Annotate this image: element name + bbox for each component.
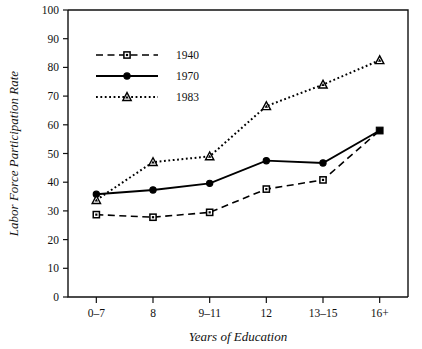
series-1983 [92,56,384,204]
series-1940 [93,131,379,221]
data-point-1983-2 [205,152,213,160]
x-tick-label: 16+ [371,307,389,319]
x-tick-label: 9–11 [198,307,221,319]
y-tick-label: 30 [48,205,60,217]
y-tick-label: 100 [42,4,60,16]
y-tick-label: 0 [53,291,59,303]
y-tick-label: 60 [48,119,60,131]
data-point-1970-5 [376,127,383,134]
data-point-1940-2 [207,209,213,215]
legend-label-1983: 1983 [176,91,199,103]
line-chart: 01020304050607080901000–789–111213–1516+… [0,0,422,349]
series-line-1983 [96,60,379,200]
y-axis-title: Labor Force Participation Rate [6,71,21,237]
x-tick-label: 13–15 [309,307,338,319]
data-point-1940-4 [320,177,326,183]
y-axis: 0102030405060708090100 [42,4,68,303]
y-tick-label: 70 [48,90,60,102]
data-point-1970-4 [320,160,326,166]
data-point-1970-3 [263,158,269,164]
data-point-legend-1940 [124,52,130,58]
data-point-1970-2 [207,180,213,186]
legend-item-1970[interactable]: 1970 [96,70,199,82]
y-tick-label: 10 [48,262,60,274]
x-tick-label: 8 [150,307,156,319]
x-axis: 0–789–111213–1516+ [88,297,389,319]
y-tick-label: 90 [48,33,60,45]
axis-frame [68,10,408,297]
y-tick-label: 50 [48,148,60,160]
series-line-1940 [96,131,379,218]
y-tick-label: 20 [48,234,60,246]
chart-container: 01020304050607080901000–789–111213–1516+… [0,0,422,349]
legend-label-1940: 1940 [176,49,199,61]
x-tick-label: 12 [261,307,273,319]
legend: 194019701983 [96,49,199,103]
data-point-1983-5 [375,56,383,64]
data-point-1970-1 [150,187,156,193]
x-axis-title: Years of Education [189,329,287,344]
y-tick-label: 40 [48,176,60,188]
x-tick-label: 0–7 [88,307,106,319]
legend-label-1970: 1970 [176,70,199,82]
series-line-1970 [96,131,379,195]
data-point-legend-1970 [124,73,130,79]
legend-item-1983[interactable]: 1983 [96,91,199,103]
plot-border [68,10,408,297]
series-1970 [93,127,383,197]
data-point-1940-3 [263,186,269,192]
data-point-1940-0 [93,212,99,218]
axis-lines [68,10,408,297]
data-point-1940-1 [150,214,156,220]
data-point-1983-0 [92,196,100,204]
legend-item-1940[interactable]: 1940 [96,49,199,61]
y-tick-label: 80 [48,61,60,73]
